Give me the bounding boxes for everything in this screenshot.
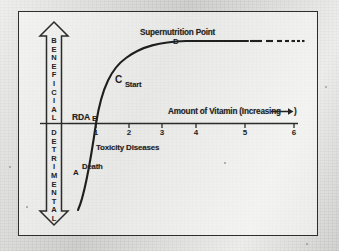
y-axis-upper-label: BENEFICIAL B E N E F I C I A L (47, 37, 61, 123)
y-axis-lower-label: DETRIMENTAL D E T R I M E N T A L (47, 129, 61, 224)
letter: L (47, 114, 61, 123)
x-tick-label: 4 (190, 128, 202, 137)
death-label: Death (82, 162, 103, 171)
letter: L (47, 215, 61, 224)
scan-speck (9, 166, 11, 168)
x-tick-label: 2 (123, 128, 135, 137)
scan-speck (26, 206, 28, 208)
x-tick-label: 1 (90, 128, 102, 137)
toxicity-diseases-label: Toxicity Diseases (96, 143, 159, 152)
x-tick-label: 5 (239, 128, 251, 137)
x-tick-label: 3 (156, 128, 168, 137)
scan-speck (306, 243, 308, 245)
dose-response-curve (78, 41, 248, 210)
scan-speck (224, 162, 226, 164)
rda-label: RDA (72, 112, 90, 122)
point-b-label: B (92, 114, 98, 123)
point-d-label: D (173, 37, 179, 46)
scan-speck (325, 86, 327, 88)
x-axis-label-close: ) (294, 107, 297, 116)
supernutrition-point-label: Supernutrition Point (140, 28, 215, 37)
point-a-label: A (73, 168, 79, 177)
x-tick-label: 6 (288, 128, 300, 137)
point-c-label: C (115, 74, 122, 85)
x-axis-label: Amount of Vitamin (Increasing (168, 107, 281, 116)
start-label: Start (125, 80, 141, 89)
